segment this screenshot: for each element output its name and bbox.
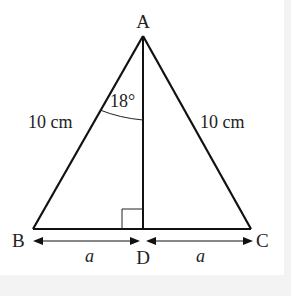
arrow-head: [146, 237, 156, 245]
right-angle-marker: [122, 209, 143, 229]
triangle-diagram: A B C D 10 cm 10 cm 18° a a: [0, 0, 291, 296]
arrow-head: [243, 237, 253, 245]
vertex-b-label: B: [12, 230, 25, 251]
side-ac: [143, 36, 251, 229]
side-ab: [33, 36, 143, 229]
vertex-c-label: C: [256, 230, 269, 251]
vertex-a-label: A: [136, 11, 150, 32]
bd-length-label: a: [85, 246, 94, 266]
arrow-head: [33, 237, 43, 245]
vertex-d-label: D: [136, 247, 150, 268]
dc-length-label: a: [196, 246, 205, 266]
side-ab-label: 10 cm: [28, 112, 73, 132]
angle-arc: [100, 110, 143, 120]
arrow-head: [130, 237, 140, 245]
angle-label: 18°: [110, 91, 135, 111]
side-ac-label: 10 cm: [200, 112, 245, 132]
